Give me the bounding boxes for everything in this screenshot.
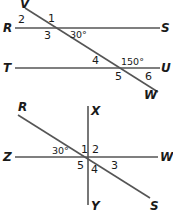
point-w: W xyxy=(144,88,158,102)
angle-measure-30: 30° xyxy=(70,29,87,40)
diagram-canvas: V R S T U W 1 2 3 30° 4 150° 5 6 R X Z W… xyxy=(0,0,173,212)
point-r-bottom: R xyxy=(18,100,27,114)
angle-1-bottom: 1 xyxy=(81,143,88,156)
point-s-bottom: S xyxy=(150,199,159,212)
angle-measure-30-bottom: 30° xyxy=(52,145,69,156)
point-x: X xyxy=(90,104,101,118)
angle-2: 2 xyxy=(18,13,25,26)
point-y: Y xyxy=(91,199,101,212)
angle-1: 1 xyxy=(48,12,55,25)
angle-measure-150: 150° xyxy=(121,56,144,67)
point-v: V xyxy=(20,0,31,11)
figure-top: V R S T U W 1 2 3 30° 4 150° 5 6 xyxy=(3,0,171,102)
point-s: S xyxy=(161,21,170,35)
angle-6: 6 xyxy=(145,70,152,83)
point-u: U xyxy=(161,61,171,75)
angle-4-bottom: 4 xyxy=(91,163,98,176)
point-z: Z xyxy=(2,150,12,164)
point-r: R xyxy=(3,21,12,35)
point-w-bottom: W xyxy=(160,150,173,164)
angle-2-bottom: 2 xyxy=(92,143,99,156)
angle-3: 3 xyxy=(44,29,51,42)
transversal-vw xyxy=(25,8,158,92)
figure-bottom: R X Z W Y S 30° 1 2 3 4 5 xyxy=(2,100,173,212)
angle-5: 5 xyxy=(115,70,122,83)
point-t: T xyxy=(3,61,12,75)
angle-4: 4 xyxy=(92,54,99,67)
angle-3-bottom: 3 xyxy=(111,159,118,172)
angle-5-bottom: 5 xyxy=(77,159,84,172)
